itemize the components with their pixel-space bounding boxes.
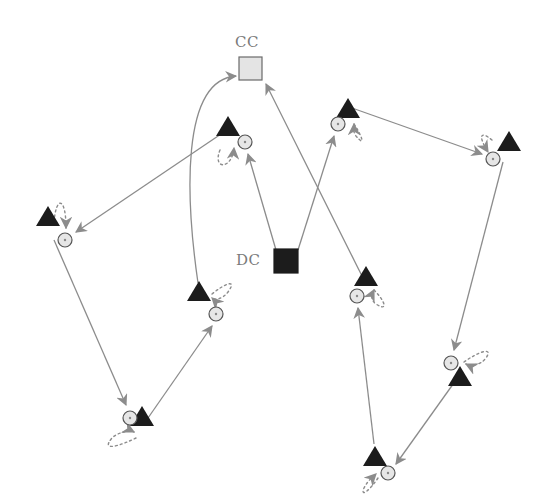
- node-t6: [486, 131, 521, 166]
- sensor-dot-icon: [215, 313, 217, 315]
- triangle-icon: [187, 281, 211, 301]
- cc-label: CC: [235, 33, 259, 51]
- edge-t5-to-t6: [352, 108, 482, 154]
- loops-layer: [54, 124, 492, 493]
- triangle-icon: [354, 266, 378, 286]
- sensor-dot-icon: [387, 472, 389, 474]
- dc-square-icon: [274, 249, 298, 273]
- node-t9: [363, 446, 395, 480]
- cc-square-icon: [239, 57, 262, 80]
- sensor-dot-icon: [244, 141, 246, 143]
- self-loop-t4: [212, 284, 231, 299]
- stations-layer: CCDC: [235, 33, 298, 273]
- dc-label: DC: [236, 251, 261, 269]
- edge-dc-to-t1: [248, 154, 276, 250]
- edge-t3-to-t4: [148, 326, 212, 418]
- node-t7: [350, 266, 378, 303]
- self-loop-t9: [363, 474, 378, 493]
- station-dc: DC: [236, 249, 298, 273]
- triangle-icon: [336, 98, 360, 118]
- sensor-dot-icon: [337, 123, 339, 125]
- sensor-dot-icon: [356, 295, 358, 297]
- edge-t1-to-t2: [76, 132, 224, 232]
- node-t8: [444, 356, 472, 386]
- triangle-icon: [36, 206, 60, 226]
- network-diagram: CCDC: [0, 0, 544, 502]
- triangle-icon: [363, 446, 387, 466]
- edge-t4-to-cc: [190, 76, 236, 283]
- self-loop-t1: [218, 148, 234, 165]
- node-t1: [216, 116, 252, 149]
- edge-t2-to-t3: [54, 240, 126, 405]
- self-loop-t7: [372, 290, 384, 307]
- self-loop-t6: [482, 135, 492, 152]
- sensor-dot-icon: [492, 158, 494, 160]
- edge-dc-to-t5: [298, 136, 334, 250]
- sensor-dot-icon: [64, 239, 66, 241]
- station-cc: CC: [235, 33, 262, 80]
- edge-t8-to-t9: [396, 380, 456, 464]
- nodes-layer: [36, 98, 521, 480]
- triangle-icon: [216, 116, 240, 136]
- sensor-dot-icon: [129, 417, 131, 419]
- triangle-icon: [497, 131, 521, 151]
- sensor-dot-icon: [450, 362, 452, 364]
- self-loop-t5: [354, 124, 362, 141]
- edge-t9-to-t7: [358, 308, 374, 444]
- node-t4: [187, 281, 223, 321]
- self-loop-t8: [464, 351, 488, 365]
- self-loop-t3: [108, 431, 136, 446]
- edge-t6-to-t8: [454, 162, 503, 350]
